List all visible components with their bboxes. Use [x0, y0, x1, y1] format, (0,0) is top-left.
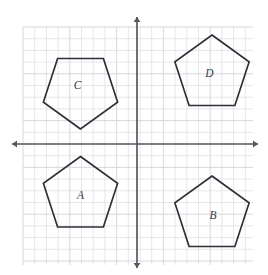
- pentagon-label-c: C: [74, 79, 82, 91]
- figure-root: ABCD: [0, 0, 268, 275]
- canvas-background: [0, 0, 268, 275]
- pentagon-label-d: D: [204, 67, 214, 79]
- coordinate-plane: ABCD: [0, 0, 268, 275]
- pentagon-label-a: A: [76, 189, 85, 201]
- pentagon-label-b: B: [209, 209, 216, 221]
